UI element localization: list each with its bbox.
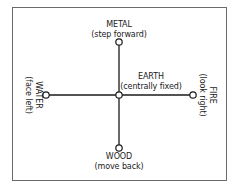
- earth-subtitle: (centrally fixed): [120, 82, 182, 92]
- node-earth: [116, 92, 122, 98]
- metal-subtitle: (step forward): [89, 30, 149, 40]
- label-water: WATER (face left): [23, 70, 43, 120]
- wood-subtitle: (move back): [89, 162, 149, 172]
- label-metal: METAL (step forward): [89, 20, 149, 40]
- label-fire: FIRE (look right): [197, 70, 217, 120]
- label-earth: EARTH (centrally fixed): [120, 72, 182, 92]
- node-wood: [116, 145, 122, 151]
- node-fire: [190, 92, 196, 98]
- earth-title: EARTH: [120, 72, 182, 82]
- water-title: WATER: [33, 70, 43, 120]
- wood-title: WOOD: [89, 152, 149, 162]
- metal-title: METAL: [89, 20, 149, 30]
- node-water: [43, 92, 49, 98]
- label-wood: WOOD (move back): [89, 152, 149, 172]
- fire-title: FIRE: [207, 70, 217, 120]
- water-subtitle: (face left): [23, 70, 33, 120]
- fire-subtitle: (look right): [197, 70, 207, 120]
